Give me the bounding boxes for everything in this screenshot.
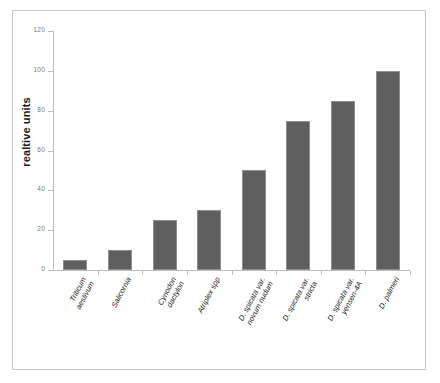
bar [331, 101, 355, 270]
y-tick-label: 20 [37, 225, 45, 232]
bar [286, 121, 310, 270]
bar [153, 220, 177, 270]
y-axis-title: realtive units [20, 72, 32, 192]
y-tick-label: 100 [34, 66, 45, 73]
x-tick [98, 271, 99, 275]
y-tick-label: 40 [37, 185, 45, 192]
y-tick-label: 120 [34, 26, 45, 33]
x-tick [410, 271, 411, 275]
x-tick [187, 271, 188, 275]
bar [242, 170, 266, 270]
plot-area [53, 31, 410, 270]
bar-chart-figure: realtive units 020406080100120 Triticum … [0, 0, 440, 383]
bar [108, 250, 132, 270]
bar [197, 210, 221, 270]
y-tick-label: 60 [37, 146, 45, 153]
bar [63, 260, 87, 270]
y-tick-label: 80 [37, 106, 45, 113]
y-tick-label: 0 [41, 265, 45, 272]
x-tick [232, 271, 233, 275]
x-tick [365, 271, 366, 275]
x-tick [321, 271, 322, 275]
x-tick [276, 271, 277, 275]
x-tick [142, 271, 143, 275]
y-tick-0: 0 [48, 270, 53, 271]
bar [376, 71, 400, 270]
